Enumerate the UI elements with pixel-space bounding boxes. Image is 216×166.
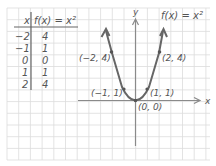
point-label: (−1, 1) — [91, 88, 123, 98]
point-label: (0, 0) — [138, 102, 162, 112]
table-cell-x: 0 — [22, 55, 28, 66]
table-header-x: x — [23, 15, 30, 26]
table-cell-x: 2 — [22, 79, 28, 90]
point-2-4 — [158, 50, 162, 54]
table-header-fx: f(x) = x² — [34, 15, 76, 26]
table-cell-y: 4 — [42, 79, 48, 90]
x-axis-label: x — [204, 96, 211, 106]
table-cell-y: 4 — [42, 31, 48, 42]
point-label: (−2, 4) — [79, 53, 111, 63]
graph-paper-figure: x f(x) = x² −2 4 −1 1 0 0 1 1 2 4 y x f(… — [0, 0, 216, 166]
table-cell-x: −2 — [15, 31, 30, 42]
table-cell-x: 1 — [22, 67, 28, 78]
grid — [7, 8, 210, 160]
axes — [78, 19, 200, 146]
curve-arrow-left-icon — [102, 29, 110, 37]
table-cell-y: 1 — [42, 67, 48, 78]
point-origin — [134, 99, 138, 103]
point-neg1-1 — [122, 87, 125, 90]
function-label: f(x) = x² — [161, 10, 203, 21]
point-1-1 — [145, 87, 148, 90]
point-label: (1, 1) — [150, 88, 174, 98]
point-label: (2, 4) — [162, 53, 186, 63]
table-cell-y: 1 — [42, 43, 48, 54]
y-axis-label: y — [132, 7, 139, 17]
table-cell-x: −1 — [15, 43, 30, 54]
table-cell-y: 0 — [42, 55, 48, 66]
